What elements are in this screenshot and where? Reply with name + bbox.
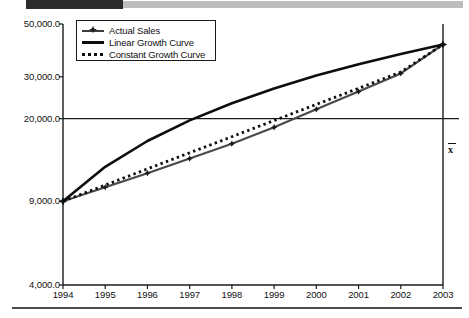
x-tick-label: 2001 xyxy=(348,289,369,300)
growth-curve-chart: 50,000.030,000.020,000.09,000.04,000.0 1… xyxy=(0,0,469,318)
y-axis-tick-labels: 50,000.030,000.020,000.09,000.04,000.0 xyxy=(0,0,60,318)
legend-key-dotted-line-icon xyxy=(81,49,105,60)
legend-key-solid-thick-line-icon xyxy=(81,37,105,48)
x-tick-label: 2003 xyxy=(433,289,454,300)
y-tick-label: 20,000.0 xyxy=(2,113,60,124)
chart-plot-area xyxy=(0,0,469,318)
footer-rule xyxy=(12,307,462,309)
mean-xbar-label: x xyxy=(448,143,456,155)
x-tick-label: 1997 xyxy=(179,289,200,300)
x-axis-tick-labels: 1994199519961997199819992000200120022003 xyxy=(0,289,469,305)
x-tick-label: 1994 xyxy=(53,289,74,300)
x-tick-label: 2000 xyxy=(306,289,327,300)
y-tick-label: 9,000.0 xyxy=(2,195,60,206)
legend-item-linear-growth-curve[interactable]: Linear Growth Curve xyxy=(81,36,211,48)
legend-label-constant-growth-curve: Constant Growth Curve xyxy=(109,49,205,60)
legend-label-actual-sales: Actual Sales xyxy=(109,25,160,36)
x-tick-label: 1996 xyxy=(137,289,158,300)
y-tick-label: 30,000.0 xyxy=(2,71,60,82)
xbar-overline xyxy=(448,143,456,144)
x-tick-label: 1998 xyxy=(222,289,243,300)
y-tick-label: 50,000.0 xyxy=(2,18,60,29)
chart-legend: Actual Sales Linear Growth Curve Constan… xyxy=(76,20,216,61)
legend-item-constant-growth-curve[interactable]: Constant Growth Curve xyxy=(81,48,211,60)
legend-key-line-diamond-marker-icon xyxy=(81,25,105,36)
legend-item-actual-sales[interactable]: Actual Sales xyxy=(81,24,211,36)
x-tick-label: 1999 xyxy=(264,289,285,300)
legend-label-linear-growth-curve: Linear Growth Curve xyxy=(109,37,194,48)
x-tick-label: 2002 xyxy=(390,289,411,300)
x-tick-label: 1995 xyxy=(95,289,116,300)
